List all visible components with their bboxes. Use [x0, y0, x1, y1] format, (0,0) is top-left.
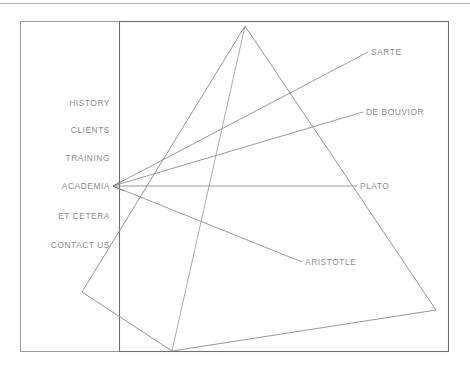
pyramid-base-front-right [172, 310, 436, 351]
sidebar-item-academia[interactable]: ACADEMIA [62, 181, 110, 191]
pyramid-edge-apex-right [245, 26, 436, 310]
sidebar-item-clients[interactable]: CLIENTS [71, 125, 110, 135]
sidebar-item-history[interactable]: HISTORY [69, 98, 110, 108]
node-label-de-bouvior[interactable]: DE BOUVIOR [366, 107, 424, 117]
node-label-plato[interactable]: PLATO [360, 181, 389, 191]
node-label-sarte[interactable]: SARTE [371, 47, 402, 57]
connector-to-sarte [113, 52, 368, 186]
navigation-menu[interactable]: HISTORY CLIENTS TRAINING ACADEMIA ET CET… [51, 98, 110, 250]
pyramid-base-left-front [82, 292, 172, 351]
diagram-canvas: HISTORY CLIENTS TRAINING ACADEMIA ET CET… [0, 0, 470, 367]
inner-border [120, 22, 449, 352]
node-labels[interactable]: SARTE DE BOUVIOR PLATO ARISTOTLE [305, 47, 424, 267]
node-label-aristotle[interactable]: ARISTOTLE [305, 257, 356, 267]
sidebar-item-training[interactable]: TRAINING [66, 153, 110, 163]
sidebar-item-contact-us[interactable]: CONTACT US [51, 240, 110, 250]
sidebar-item-et-cetera[interactable]: ET CETERA [58, 211, 110, 221]
connector-to-aristotle [113, 186, 302, 262]
pyramid-edge-apex-front [172, 26, 245, 351]
connector-to-de-bouvior [113, 112, 363, 186]
connector-lines [113, 52, 368, 262]
